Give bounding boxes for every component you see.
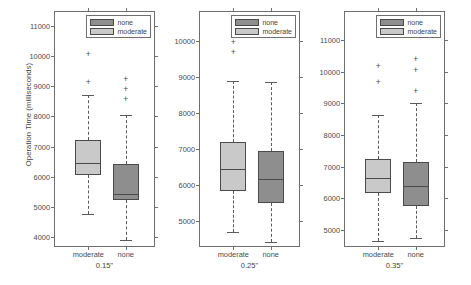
panel-025-axes: 5000600070008000900010000+++moderatenone… bbox=[199, 11, 300, 247]
legend-label-moderate: moderate bbox=[117, 28, 147, 35]
outlier-marker: + bbox=[231, 37, 236, 46]
y-tick-label: 9000 bbox=[179, 72, 195, 81]
whisker-cap-upper bbox=[372, 115, 384, 116]
y-tick bbox=[341, 135, 345, 136]
box-none bbox=[258, 151, 284, 203]
y-tick bbox=[196, 149, 200, 150]
whisker-cap-lower bbox=[265, 242, 277, 243]
y-tick-label: 10000 bbox=[319, 67, 340, 76]
y-tick bbox=[51, 86, 55, 87]
whisker-lower bbox=[378, 193, 379, 240]
legend-swatch-none bbox=[235, 19, 259, 26]
legend-label-none: none bbox=[262, 19, 278, 26]
x-tick-top bbox=[88, 8, 89, 12]
legend-swatch-none bbox=[90, 19, 114, 26]
whisker-lower bbox=[271, 203, 272, 242]
legend-item-none: none bbox=[380, 18, 437, 26]
box-moderate bbox=[75, 140, 101, 176]
x-tick-label: moderate bbox=[363, 250, 394, 259]
outlier-marker: + bbox=[231, 48, 236, 57]
whisker-cap-lower bbox=[372, 241, 384, 242]
legend-item-moderate: moderate bbox=[90, 27, 147, 35]
legend-label-none: none bbox=[407, 19, 423, 26]
panel-035-plot-area: 500060007000800090001000011000+++moderat… bbox=[345, 12, 444, 246]
x-tick-label: none bbox=[117, 250, 133, 259]
y-tick-right bbox=[299, 221, 303, 222]
median-line bbox=[365, 178, 391, 179]
x-tick-top bbox=[126, 8, 127, 12]
panel-015-x-axis-title: 0.15" bbox=[96, 261, 113, 270]
x-tick-label: moderate bbox=[218, 250, 249, 259]
y-tick bbox=[341, 40, 345, 41]
whisker-upper bbox=[126, 115, 127, 163]
y-tick-right bbox=[444, 198, 448, 199]
whisker-upper bbox=[416, 103, 417, 162]
legend-label-moderate: moderate bbox=[407, 28, 437, 35]
y-tick-right bbox=[154, 237, 158, 238]
y-tick-right bbox=[154, 26, 158, 27]
box-none bbox=[403, 162, 429, 205]
whisker-upper bbox=[88, 95, 89, 140]
boxplot-figure: Operation Time (milliseconds) 4000500060… bbox=[0, 0, 471, 285]
outlier-marker: + bbox=[123, 74, 128, 83]
legend-swatch-moderate bbox=[90, 28, 114, 35]
whisker-cap-lower bbox=[410, 238, 422, 239]
x-tick-top bbox=[233, 8, 234, 12]
y-tick bbox=[341, 167, 345, 168]
panel-035-legend: nonemoderate bbox=[376, 15, 441, 38]
y-tick bbox=[51, 237, 55, 238]
y-tick-label: 9000 bbox=[324, 99, 340, 108]
legend-swatch-none bbox=[380, 19, 404, 26]
x-tick-label: moderate bbox=[73, 250, 104, 259]
y-tick bbox=[196, 41, 200, 42]
y-tick bbox=[196, 77, 200, 78]
legend-swatch-moderate bbox=[380, 28, 404, 35]
y-tick-label: 10000 bbox=[174, 36, 195, 45]
y-tick-right bbox=[154, 116, 158, 117]
y-tick-right bbox=[444, 103, 448, 104]
whisker-cap-upper bbox=[227, 81, 239, 82]
median-line bbox=[113, 194, 139, 195]
x-tick-top bbox=[271, 8, 272, 12]
legend-label-moderate: moderate bbox=[262, 28, 292, 35]
y-tick-label: 5000 bbox=[179, 216, 195, 225]
y-tick bbox=[51, 56, 55, 57]
outlier-marker: + bbox=[86, 50, 91, 59]
y-tick-label: 8000 bbox=[324, 131, 340, 140]
outlier-marker: + bbox=[413, 55, 418, 64]
box-moderate bbox=[220, 142, 246, 191]
y-tick bbox=[51, 116, 55, 117]
legend-swatch-moderate bbox=[235, 28, 259, 35]
y-tick bbox=[341, 103, 345, 104]
legend-item-none: none bbox=[90, 18, 147, 26]
outlier-marker: + bbox=[413, 66, 418, 75]
whisker-lower bbox=[126, 200, 127, 240]
y-tick-label: 7000 bbox=[324, 162, 340, 171]
y-tick bbox=[51, 177, 55, 178]
y-tick-label: 11000 bbox=[30, 21, 50, 30]
median-line bbox=[403, 186, 429, 187]
y-tick bbox=[51, 207, 55, 208]
whisker-cap-upper bbox=[265, 82, 277, 83]
whisker-upper bbox=[378, 115, 379, 160]
y-tick-label: 7000 bbox=[34, 142, 50, 151]
whisker-lower bbox=[88, 175, 89, 214]
y-tick-right bbox=[299, 41, 303, 42]
whisker-cap-lower bbox=[82, 214, 94, 215]
x-tick-label: none bbox=[407, 250, 423, 259]
outlier-marker: + bbox=[123, 95, 128, 104]
y-tick-label: 8000 bbox=[34, 112, 50, 121]
whisker-upper bbox=[233, 81, 234, 142]
y-tick-label: 11000 bbox=[320, 36, 340, 45]
y-tick-label: 5000 bbox=[34, 203, 50, 212]
outlier-marker: + bbox=[376, 61, 381, 70]
panel-015-plot-area: 4000500060007000800090001000011000+++mod… bbox=[55, 12, 154, 246]
panel-025-plot-area: 5000600070008000900010000+++moderatenone… bbox=[200, 12, 299, 246]
y-tick-label: 6000 bbox=[324, 194, 340, 203]
whisker-cap-upper bbox=[120, 115, 132, 116]
outlier-marker: + bbox=[86, 77, 91, 86]
y-tick-right bbox=[444, 167, 448, 168]
y-tick bbox=[196, 221, 200, 222]
legend-item-moderate: moderate bbox=[235, 27, 292, 35]
y-tick-label: 5000 bbox=[324, 225, 340, 234]
